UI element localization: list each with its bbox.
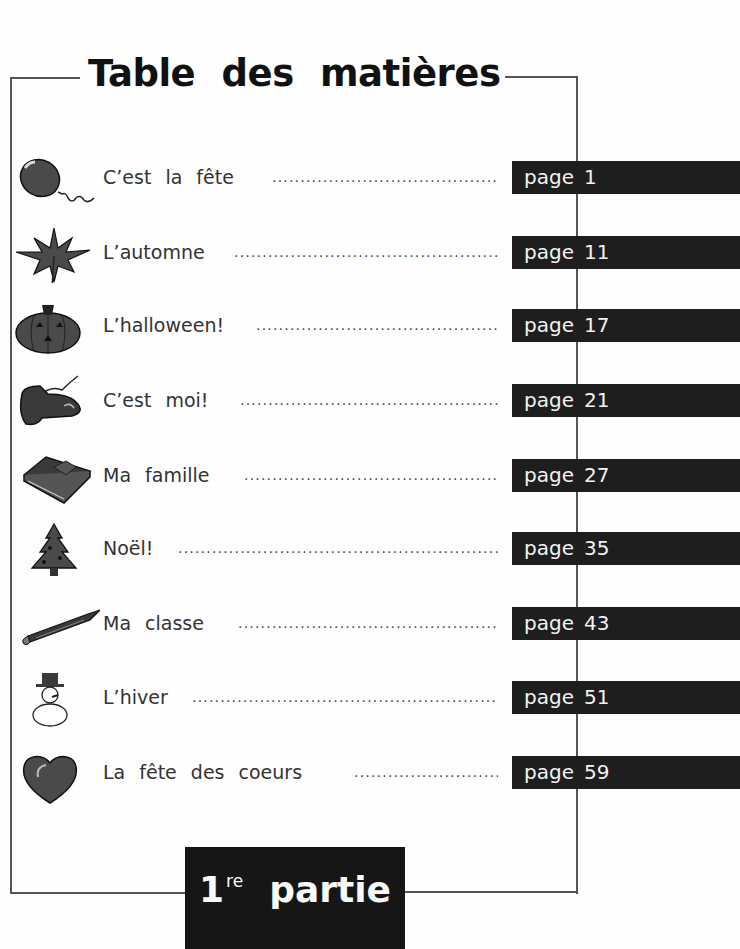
page-number: 1	[584, 165, 597, 189]
leader-dots: ........................................…	[178, 540, 498, 560]
part-word: partie	[269, 869, 391, 910]
page-number: 51	[584, 685, 609, 709]
leader-dots: ........................................…	[354, 764, 498, 784]
page-bar: page59	[512, 756, 740, 789]
page-number: 27	[584, 463, 609, 487]
page-number: 11	[584, 240, 609, 264]
page-bar: page35	[512, 532, 740, 565]
toc-entry[interactable]: Ma famille .............................…	[0, 456, 740, 506]
page-word: page	[524, 165, 584, 189]
toc-entry[interactable]: C’est moi! .............................…	[0, 381, 740, 431]
entry-label: L’halloween!	[103, 314, 224, 336]
toc-entry[interactable]: Ma classe ..............................…	[0, 604, 740, 654]
balloon-icon	[14, 158, 100, 208]
page-bar: page51	[512, 681, 740, 714]
heart-icon	[14, 747, 100, 807]
shoe-icon	[14, 367, 100, 427]
page-number: 59	[584, 760, 609, 784]
snowman-icon	[14, 668, 100, 730]
page-word: page	[524, 313, 584, 337]
leader-dots: ........................................…	[234, 244, 498, 264]
entry-label: Ma classe	[103, 612, 204, 634]
toc-entry[interactable]: La fête des coeurs .....................…	[0, 753, 740, 803]
toc-entry[interactable]: L’automne ..............................…	[0, 233, 740, 283]
christmas-tree-icon	[14, 515, 100, 579]
toc-entry[interactable]: C’est la fête ..........................…	[0, 158, 740, 208]
leader-dots: ........................................…	[238, 615, 498, 635]
page-bar: page1	[512, 161, 740, 194]
page-word: page	[524, 536, 584, 560]
page-number: 35	[584, 536, 609, 560]
toc-entry[interactable]: L’halloween! ...........................…	[0, 306, 740, 356]
entry-label: Ma famille	[103, 464, 209, 486]
leader-dots: ........................................…	[192, 689, 498, 709]
part-label: 1repartie	[199, 869, 391, 910]
leader-dots: ........................................…	[272, 169, 498, 189]
page-word: page	[524, 463, 584, 487]
frame-top-left	[10, 77, 80, 79]
page-bar: page43	[512, 607, 740, 640]
page-word: page	[524, 611, 584, 635]
entry-label: Noël!	[103, 537, 153, 559]
leader-dots: ........................................…	[256, 317, 498, 337]
page-word: page	[524, 685, 584, 709]
page-word: page	[524, 388, 584, 412]
toc-entry[interactable]: L’hiver ................................…	[0, 678, 740, 728]
pumpkin-icon	[14, 298, 100, 354]
entry-label: L’hiver	[103, 686, 168, 708]
frame-bottom-left	[10, 892, 186, 894]
pencil-icon	[14, 604, 100, 654]
maple-leaf-icon	[14, 219, 100, 283]
leader-dots: ........................................…	[240, 392, 498, 412]
toc-entry[interactable]: Noël! ..................................…	[0, 529, 740, 579]
entry-label: L’automne	[103, 241, 205, 263]
book-icon	[14, 450, 100, 506]
part-suffix: re	[226, 871, 243, 891]
frame-top-right	[505, 76, 578, 78]
part-label-box: 1repartie	[185, 847, 405, 949]
page-number: 21	[584, 388, 609, 412]
page-bar: page21	[512, 384, 740, 417]
entry-label: La fête des coeurs	[103, 761, 302, 783]
page-bar: page11	[512, 236, 740, 269]
entry-label: C’est la fête	[103, 166, 234, 188]
frame-bottom-right	[404, 891, 578, 893]
part-number: 1	[199, 869, 224, 910]
entry-label: C’est moi!	[103, 389, 208, 411]
page-number: 17	[584, 313, 609, 337]
page-number: 43	[584, 611, 609, 635]
page-bar: page17	[512, 309, 740, 342]
leader-dots: ........................................…	[244, 467, 498, 487]
page-word: page	[524, 760, 584, 784]
page-word: page	[524, 240, 584, 264]
page-bar: page27	[512, 459, 740, 492]
page-title: Table des matières	[84, 52, 504, 95]
